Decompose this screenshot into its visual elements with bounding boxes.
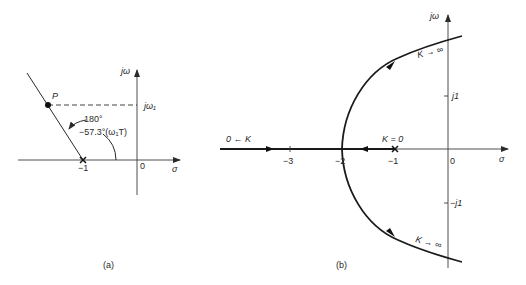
angle-text-1: 180° <box>84 114 103 124</box>
arrow-right-locus <box>266 146 274 152</box>
figure-a: jω P jω₁ 180° −57.3°(ω₁T) −1 0 (a) σ <box>18 66 180 270</box>
jw1-label: jω₁ <box>143 101 156 111</box>
figure-b: jω σ −3 −2 −1 0 j1 −j1 K = 0 0 ← K K → ∞… <box>220 11 508 270</box>
tick-label-minus1: −1 <box>388 156 398 166</box>
point-p <box>45 102 51 108</box>
k-to-zero-label: 0 ← K <box>226 134 252 144</box>
angle-arc <box>103 134 116 160</box>
k-inf-upper-label: K → ∞ <box>416 44 444 60</box>
tick-label-j1: j1 <box>451 91 459 101</box>
arrow-left-locus <box>360 146 368 152</box>
upper-branch-locus <box>342 36 462 149</box>
tick-label-minus3: −3 <box>283 156 293 166</box>
sigma-label-a: σ <box>172 164 178 174</box>
caption-b: (b) <box>336 260 347 270</box>
tick-label-minus-j1: −j1 <box>450 198 462 208</box>
lower-branch-locus <box>342 149 462 262</box>
p-label: P <box>52 91 58 101</box>
tick-label-minus2: −2 <box>335 156 345 166</box>
sigma-label-b: σ <box>499 154 505 164</box>
k-zero-label: K = 0 <box>382 134 403 144</box>
pole-label-a: −1 <box>78 163 88 173</box>
jw-label-b: jω <box>429 11 439 21</box>
caption-a: (a) <box>103 260 114 270</box>
angle-text-2: −57.3°(ω₁T) <box>79 127 127 137</box>
tick-label-0: 0 <box>450 156 455 166</box>
origin-label-a: 0 <box>140 161 145 171</box>
root-locus-figure: jω P jω₁ 180° −57.3°(ω₁T) −1 0 (a) σ <box>0 0 526 285</box>
jw-label-a: jω <box>120 66 130 76</box>
angle-line <box>27 73 83 160</box>
